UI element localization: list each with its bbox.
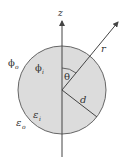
eps-outside-label: ε o <box>16 117 26 130</box>
svg-text:ε: ε <box>16 117 21 128</box>
svg-text:ε: ε <box>33 109 38 120</box>
svg-text:o: o <box>15 63 19 70</box>
svg-text:i: i <box>39 115 41 122</box>
r-vector-label: r <box>101 43 107 54</box>
svg-text:i: i <box>42 68 44 75</box>
svg-text:o: o <box>22 123 26 130</box>
z-axis-label: z <box>57 8 63 18</box>
svg-text:ϕ: ϕ <box>35 62 42 73</box>
radius-label: d <box>80 94 86 105</box>
sphere-diagram: z r θ d ϕ o ϕ i ε i ε o <box>0 0 122 163</box>
svg-text:ϕ: ϕ <box>8 57 15 68</box>
phi-outside-label: ϕ o <box>8 57 19 70</box>
theta-label: θ <box>64 71 70 82</box>
